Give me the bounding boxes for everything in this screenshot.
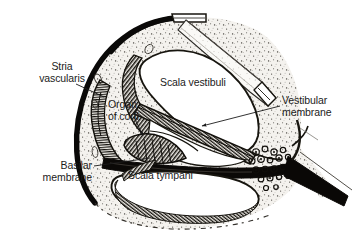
label-vestibular-membrane-line2: membrane [282,106,331,118]
label-scala-vestibuli: Scala vestibuli [160,77,246,89]
label-basilar-membrane: Basilarmembrane [16,160,92,183]
label-organ-of-corti-line2: of corti [108,110,139,122]
label-scala-tympani: Scala tympani [128,170,212,182]
label-scala-tympani-line1: Scala tympani [128,169,193,181]
cochlea-illustration [0,0,358,238]
label-organ-of-corti: Organof corti [108,99,160,122]
apex-bone-cap [172,14,206,22]
label-vestibular-membrane-line1: Vestibular [282,94,327,106]
label-basilar-membrane-line2: membrane [43,171,92,183]
label-basilar-membrane-line1: Basilar [61,159,92,171]
label-stria-vascularis: Striavascularis [34,61,90,84]
label-stria-vascularis-line1: Stria [51,60,72,72]
cochlea-cross-section-figure: Striavascularis Organof corti Scala vest… [0,0,358,238]
label-organ-of-corti-line1: Organ [108,98,137,110]
label-stria-vascularis-line2: vascularis [39,72,85,84]
label-vestibular-membrane: Vestibularmembrane [282,95,356,118]
label-scala-vestibuli-line1: Scala vestibuli [160,76,226,88]
